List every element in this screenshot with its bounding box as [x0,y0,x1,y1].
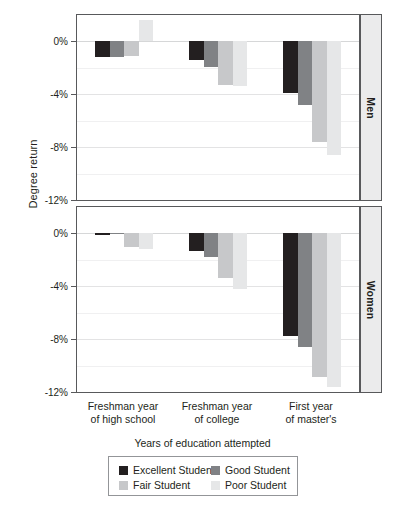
bar [327,41,342,155]
y-tick-label: -8% [28,142,68,153]
bar [283,41,298,93]
bar [124,233,139,246]
y-tick-mark [71,147,76,148]
x-category-label-line: First year [256,400,366,413]
x-category-label-line: of master's [256,413,366,426]
facet-panel-men [76,14,360,201]
legend-swatch-icon [211,466,220,475]
legend-label: Fair Student [133,479,190,491]
bar [312,233,327,377]
bar [204,41,219,66]
facet-panel-women [76,206,360,393]
gridline [77,147,359,148]
y-tick-mark [71,339,76,340]
bar [124,41,139,56]
bar [298,41,313,104]
bar [189,41,204,60]
facet-strip-women: Women [360,206,382,393]
plot-area-women [77,207,359,392]
y-tick-mark [71,94,76,95]
bar [139,20,154,41]
y-tick-label: 0% [28,228,68,239]
y-tick-label: -4% [28,89,68,100]
y-tick-label: -12% [28,387,68,398]
legend-swatch-icon [119,466,128,475]
bar [218,41,233,85]
x-category-label: First yearof master's [256,400,366,426]
x-axis-title: Years of education attempted [0,437,405,449]
y-tick-mark [71,233,76,234]
y-tick-label: -4% [28,281,68,292]
gridline [77,392,359,393]
y-axis-title: Degree return [27,99,39,249]
gridline [77,200,359,201]
bar [312,41,327,141]
bar [218,233,233,278]
y-tick-label: -8% [28,334,68,345]
facet-strip-label-men: Men [365,97,377,119]
bar [283,233,298,336]
y-tick-label: 0% [28,36,68,47]
legend-item[interactable]: Good Student [211,464,290,476]
y-tick-mark [71,41,76,42]
y-tick-label: -12% [28,195,68,206]
legend-item[interactable]: Excellent Student [119,464,215,476]
bar [95,233,110,235]
legend-item[interactable]: Poor Student [211,479,286,491]
gridline-minor [77,174,359,175]
y-tick-mark [71,200,76,201]
bar [95,41,110,57]
legend-label: Excellent Student [133,464,215,476]
facet-strip-men: Men [360,14,382,201]
legend-swatch-icon [211,481,220,490]
plot-area-men [77,15,359,200]
chart-container: Degree return Men Women 0%-4%-8%-12%0%-4… [0,0,405,511]
bar [298,233,313,347]
y-tick-mark [71,392,76,393]
bar [110,41,125,57]
bar [139,233,154,249]
y-tick-mark [71,286,76,287]
bar [327,233,342,386]
bar [189,233,204,250]
legend: Excellent StudentGood StudentFair Studen… [108,456,298,496]
facet-strip-label-women: Women [365,280,377,319]
legend-item[interactable]: Fair Student [119,479,190,491]
bar [110,233,125,234]
bar [233,233,248,289]
legend-label: Good Student [225,464,290,476]
bar [204,233,219,257]
bar [233,41,248,86]
legend-swatch-icon [119,481,128,490]
legend-label: Poor Student [225,479,286,491]
